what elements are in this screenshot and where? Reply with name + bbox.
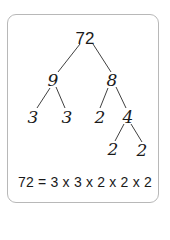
node-2: 2	[95, 109, 106, 126]
node-9: 9	[48, 72, 59, 89]
node-3-left: 3	[28, 109, 39, 126]
node-8: 8	[107, 72, 118, 89]
node-2-leaf-left: 2	[108, 141, 119, 158]
node-root: 72	[76, 30, 95, 47]
factorization-equation: 72 = 3 x 3 x 2 x 2 x 2	[0, 174, 170, 190]
node-4: 4	[123, 109, 134, 126]
node-3-right: 3	[62, 109, 73, 126]
node-2-leaf-right: 2	[137, 142, 148, 159]
